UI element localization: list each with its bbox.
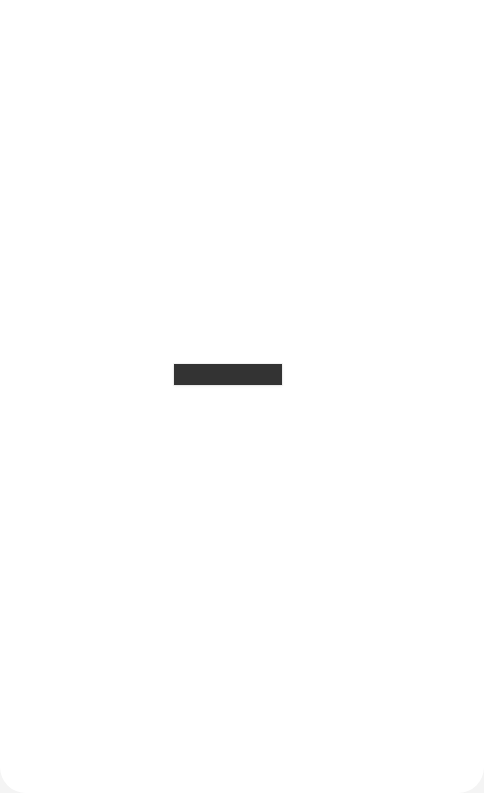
blank-screen [0, 0, 484, 793]
loading-placeholder-bar [174, 364, 282, 385]
